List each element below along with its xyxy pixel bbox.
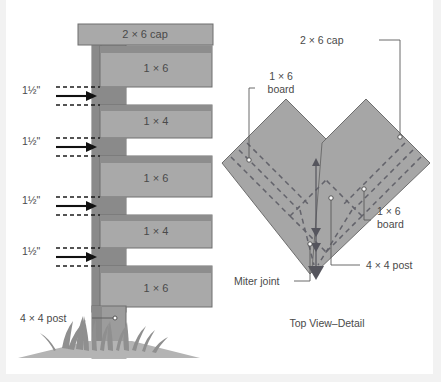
board-row-3: 1 × 6 xyxy=(100,156,212,197)
fence-detail-figure: 2 × 6 cap 1 × 6 1 × 4 xyxy=(0,0,441,382)
board-5-label: 1 × 6 xyxy=(144,282,169,294)
gap-2 xyxy=(92,138,126,156)
page-bottom-edge xyxy=(0,374,441,382)
board-4-label: 1 × 4 xyxy=(144,225,169,237)
board-row-4: 1 × 4 xyxy=(100,215,212,248)
cap-2x6: 2 × 6 cap xyxy=(78,24,213,45)
board-row-2: 1 × 4 xyxy=(100,105,212,138)
dimension-gap-3: 1½" xyxy=(22,194,100,215)
callout-board-left-label-1: 1 × 6 xyxy=(269,70,293,82)
gap-2-post-face xyxy=(92,138,126,156)
figure-canvas: 2 × 6 cap 1 × 6 1 × 4 xyxy=(0,0,441,382)
board-4-top-edge xyxy=(100,215,212,221)
gap-1-post-face xyxy=(92,87,126,105)
dimension-gap-3-label: 1½" xyxy=(22,194,41,206)
dimension-gap-1: 1½" xyxy=(22,84,100,105)
board-row-5: 1 × 6 xyxy=(100,266,212,307)
dimension-gap-4-label: 1½" xyxy=(22,245,41,257)
gap-3 xyxy=(92,197,126,215)
gap-4-post-face xyxy=(92,248,126,266)
callout-board-left-label-2: board xyxy=(268,83,295,95)
board-1-label: 1 × 6 xyxy=(144,62,169,74)
top-view-caption: Top View–Detail xyxy=(289,317,364,329)
board-3-top-edge xyxy=(100,156,212,163)
callout-miter-joint-dot xyxy=(308,242,312,246)
callout-board-right-label-2: board xyxy=(377,218,404,230)
callout-miter-joint-label: Miter joint xyxy=(234,275,280,287)
cap-label: 2 × 6 cap xyxy=(122,28,168,40)
callout-post-topview-label: 4 × 4 post xyxy=(366,259,412,271)
callout-board-left-dot xyxy=(247,158,251,162)
board-5-top-edge xyxy=(100,266,212,273)
elevation-view: 2 × 6 cap 1 × 6 1 × 4 xyxy=(18,24,213,358)
dimension-gap-1-label: 1½" xyxy=(22,84,41,96)
dimension-gap-2-label: 1½" xyxy=(22,135,41,147)
board-2-label: 1 × 4 xyxy=(144,115,169,127)
callout-post-elevation-dot xyxy=(113,316,117,320)
board-3-label: 1 × 6 xyxy=(144,172,169,184)
callout-post-topview-dot xyxy=(329,196,333,200)
gap-1 xyxy=(92,87,126,105)
gap-4 xyxy=(92,248,126,266)
board-1-top-edge xyxy=(100,46,212,53)
dimension-gap-2: 1½" xyxy=(22,135,100,156)
dimension-gap-4: 1½" xyxy=(22,245,100,266)
gap-3-post-face xyxy=(92,197,126,215)
board-2-top-edge xyxy=(100,105,212,111)
callout-cap-topview-label: 2 × 6 cap xyxy=(300,34,344,46)
page-left-edge xyxy=(0,0,6,382)
callout-cap-topview-dot xyxy=(398,135,402,139)
top-view-detail: 2 × 6 cap 1 × 6 board 1 × 6 board 4 × 4 xyxy=(222,34,430,329)
page-right-edge xyxy=(433,0,441,382)
callout-board-right-label-1: 1 × 6 xyxy=(377,205,401,217)
board-row-1: 1 × 6 xyxy=(100,46,212,87)
callout-board-right-dot xyxy=(362,187,366,191)
callout-post-elevation-label: 4 × 4 post xyxy=(20,312,66,324)
